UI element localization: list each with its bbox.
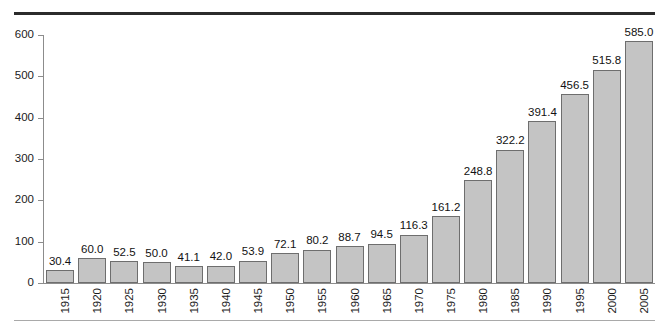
bar xyxy=(110,261,138,283)
bar-group: 50.0 xyxy=(143,35,171,283)
bar xyxy=(528,121,556,283)
bar-group: 80.2 xyxy=(303,35,331,283)
y-axis-tick-label: 100 xyxy=(0,236,34,248)
bar xyxy=(143,262,171,283)
x-axis-tick-label: 1985 xyxy=(496,288,524,322)
bar xyxy=(336,246,364,283)
bar-value-label: 30.4 xyxy=(49,256,71,268)
bar xyxy=(78,258,106,283)
bar xyxy=(400,235,428,283)
y-axis-tick xyxy=(38,200,43,201)
y-axis-tick-label: 0 xyxy=(0,277,34,289)
x-axis-tick-label: 1940 xyxy=(207,288,235,322)
x-axis-tick-label: 1955 xyxy=(303,288,331,322)
bar xyxy=(432,216,460,283)
bar-group: 41.1 xyxy=(175,35,203,283)
bar xyxy=(239,261,267,283)
bar-value-label: 53.9 xyxy=(242,246,264,258)
bar-value-label: 116.3 xyxy=(400,220,428,232)
y-axis-tick-label: 300 xyxy=(0,153,34,165)
bar-group: 94.5 xyxy=(368,35,396,283)
bar-value-label: 456.5 xyxy=(560,80,589,92)
y-axis-tick xyxy=(38,118,43,119)
x-axis-tick-label: 1925 xyxy=(110,288,138,322)
bar-value-label: 515.8 xyxy=(592,55,621,67)
bar xyxy=(368,244,396,283)
bar-group: 60.0 xyxy=(78,35,106,283)
x-axis-tick-label: 1915 xyxy=(46,288,74,322)
bar-value-label: 42.0 xyxy=(210,251,232,263)
bar-value-label: 52.5 xyxy=(113,247,135,259)
bar-value-label: 72.1 xyxy=(274,239,296,251)
bar xyxy=(561,94,589,283)
x-axis-tick-label: 1990 xyxy=(528,288,556,322)
x-axis-tick-label: 1975 xyxy=(432,288,460,322)
bar-value-label: 60.0 xyxy=(81,244,103,256)
x-axis-tick-label: 2005 xyxy=(625,288,653,322)
bar-group: 248.8 xyxy=(464,35,492,283)
bar-value-label: 322.2 xyxy=(496,135,525,147)
bar-value-label: 585.0 xyxy=(625,27,654,39)
y-axis-tick xyxy=(38,76,43,77)
bar-group: 322.2 xyxy=(496,35,524,283)
bar xyxy=(175,266,203,283)
x-axis-tick-label: 1965 xyxy=(368,288,396,322)
y-axis-tick xyxy=(38,283,43,284)
x-axis-tick-label: 1920 xyxy=(78,288,106,322)
bar xyxy=(625,41,653,283)
bar-group: 585.0 xyxy=(625,35,653,283)
bar-group: 88.7 xyxy=(336,35,364,283)
bar-group: 116.3 xyxy=(400,35,428,283)
y-axis-tick-label: 200 xyxy=(0,195,34,207)
bar-group: 161.2 xyxy=(432,35,460,283)
bar xyxy=(496,150,524,283)
y-axis-tick-label: 600 xyxy=(0,29,34,41)
y-axis-tick xyxy=(38,159,43,160)
y-axis-tick xyxy=(38,242,43,243)
x-axis-line xyxy=(43,283,655,284)
bar-group: 456.5 xyxy=(561,35,589,283)
bar-value-label: 94.5 xyxy=(370,229,392,241)
bar-value-label: 248.8 xyxy=(464,166,493,178)
x-axis-tick-label: 1930 xyxy=(143,288,171,322)
bar-group: 42.0 xyxy=(207,35,235,283)
bar xyxy=(303,250,331,283)
bar-group: 30.4 xyxy=(46,35,74,283)
bar-chart-figure: 0100200300400500600 30.460.052.550.041.1… xyxy=(0,0,669,334)
bar xyxy=(464,180,492,283)
bar xyxy=(46,270,74,283)
x-axis-tick-label: 1960 xyxy=(336,288,364,322)
bar xyxy=(271,253,299,283)
y-axis-tick-label: 500 xyxy=(0,71,34,83)
x-axis-tick-label: 2000 xyxy=(593,288,621,322)
top-divider-rule xyxy=(14,12,655,15)
bar-value-label: 88.7 xyxy=(338,232,360,244)
y-axis-tick-label: 400 xyxy=(0,112,34,124)
x-axis-tick-label: 1950 xyxy=(271,288,299,322)
bar xyxy=(593,70,621,283)
x-axis-tick-label: 1945 xyxy=(239,288,267,322)
bar-group: 391.4 xyxy=(528,35,556,283)
bar-value-label: 41.1 xyxy=(178,252,200,264)
bar-group: 515.8 xyxy=(593,35,621,283)
plot-area: 30.460.052.550.041.142.053.972.180.288.7… xyxy=(44,35,655,283)
bar-group: 72.1 xyxy=(271,35,299,283)
bar xyxy=(207,266,235,283)
bar-group: 52.5 xyxy=(110,35,138,283)
bar-group: 53.9 xyxy=(239,35,267,283)
x-axis-tick-label: 1980 xyxy=(464,288,492,322)
x-axis-tick-label: 1970 xyxy=(400,288,428,322)
y-axis-tick xyxy=(38,35,43,36)
bar-value-label: 80.2 xyxy=(306,235,328,247)
bar-value-label: 391.4 xyxy=(528,107,557,119)
x-axis-tick-label: 1935 xyxy=(175,288,203,322)
bar-value-label: 161.2 xyxy=(432,202,461,214)
x-axis-tick-label: 1995 xyxy=(561,288,589,322)
bar-value-label: 50.0 xyxy=(145,248,167,260)
